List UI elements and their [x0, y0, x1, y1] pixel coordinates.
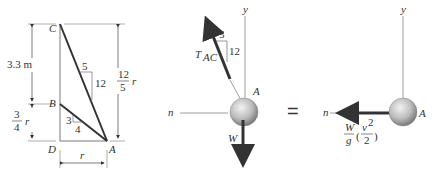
velocity-exponent: 2 — [368, 116, 374, 128]
dim-cb-label: 3.3 m — [7, 58, 33, 70]
point-d-label: D — [47, 143, 56, 155]
left-paren: ( — [356, 130, 360, 143]
fbd-slope-rise: 12 — [229, 45, 240, 57]
point-a-label-kd: A — [418, 107, 426, 119]
point-a-label: A — [108, 143, 116, 155]
point-a-label-fbd: A — [252, 85, 260, 97]
velocity-denominator: 2 — [364, 134, 370, 146]
slope-ba-rise: 3 — [66, 114, 72, 126]
n-axis-label: n — [168, 106, 174, 118]
tension-subscript: AC — [202, 51, 218, 63]
weight-label: W — [228, 132, 238, 144]
dim-da-label: r — [80, 149, 85, 161]
slope-ca-rise: 12 — [95, 77, 106, 89]
slope-ca-run: 5 — [82, 60, 88, 72]
n-axis-label-kd: n — [323, 106, 329, 118]
free-body-diagram: y n T AC 5 12 A W — [168, 3, 260, 162]
fbd-slope-run: 5 — [219, 28, 225, 40]
term-numerator: W — [345, 121, 355, 133]
right-paren: ) — [374, 130, 378, 143]
dim-ca-den: 5 — [120, 81, 126, 93]
y-axis-label: y — [242, 3, 248, 15]
term-denominator: g — [346, 134, 352, 146]
kinetic-diagram: y n A W g ( v 2 2 ) — [323, 3, 426, 146]
point-b-label: B — [49, 97, 56, 109]
dim-ca-var: r — [132, 75, 137, 87]
equals-sign: = — [287, 100, 299, 122]
dim-bd-var: r — [25, 115, 30, 127]
tension-label: T — [195, 48, 202, 60]
geometry-panel: 3.3 m 3 4 r 12 5 r r 5 12 3 4 C B D A — [6, 22, 144, 168]
diagram-canvas: 3.3 m 3 4 r 12 5 r r 5 12 3 4 C B D A — [0, 0, 434, 173]
particle-sphere-kd — [389, 98, 417, 126]
dim-ca-num: 12 — [118, 68, 129, 80]
y-axis-label-kd: y — [400, 3, 406, 15]
point-c-label: C — [49, 22, 57, 34]
slope-ba-run: 4 — [75, 123, 81, 135]
dim-bd-den: 4 — [14, 121, 20, 133]
dim-bd-num: 3 — [14, 108, 20, 120]
velocity-symbol: v — [362, 121, 367, 133]
